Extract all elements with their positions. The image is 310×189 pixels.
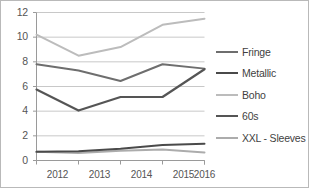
chart-legend: FringeMetallicBoho60sXXL - Sleeves [216, 41, 310, 149]
legend-color-swatch [216, 137, 238, 139]
y-axis-tick-label: 8 [6, 55, 28, 67]
y-axis-tick-label: 10 [6, 30, 28, 42]
legend-color-swatch [216, 115, 238, 117]
y-axis-tick-label: 6 [6, 80, 28, 92]
legend-item[interactable]: 60s [216, 106, 310, 128]
x-axis-tick-label: 2014 [125, 169, 159, 180]
legend-item[interactable]: Fringe [216, 41, 310, 63]
series-line-fringe [37, 64, 205, 81]
series-line-60s [37, 69, 205, 110]
legend-color-swatch [216, 94, 238, 96]
x-axis-tick-label: 2013 [83, 169, 117, 180]
legend-color-swatch [216, 51, 238, 53]
data-series-lines [37, 19, 205, 153]
x-axis-tick-label: 2012 [41, 169, 75, 180]
y-axis-tick-label: 2 [6, 129, 28, 141]
legend-item-label: Fringe [242, 46, 271, 58]
x-axis-tick-label: 2016 [188, 169, 222, 180]
legend-item[interactable]: XXL - Sleeves [216, 127, 310, 149]
legend-color-swatch [216, 72, 238, 74]
legend-item-label: XXL - Sleeves [242, 132, 306, 144]
legend-item-label: 60s [242, 110, 258, 122]
x-axis-tick-marks [37, 161, 205, 165]
y-axis-tick-label: 12 [6, 6, 28, 18]
legend-item[interactable]: Metallic [216, 63, 310, 85]
legend-item-label: Metallic [242, 67, 276, 79]
y-axis-tick-label: 4 [6, 104, 28, 116]
y-axis-tick-label: 0 [6, 154, 28, 166]
legend-item-label: Boho [242, 89, 266, 101]
line-chart: 024681012 20122013201420152016 FringeMet… [0, 0, 310, 189]
legend-item[interactable]: Boho [216, 84, 310, 106]
